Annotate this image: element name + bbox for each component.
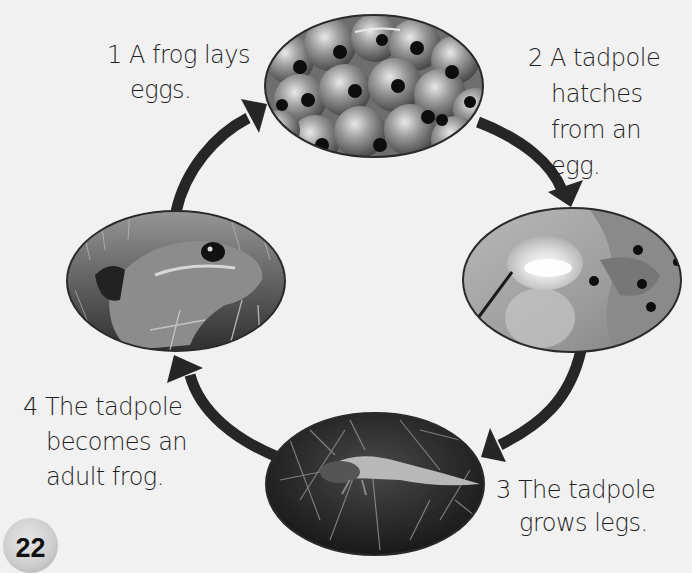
stage-2-line-4: egg.	[528, 148, 660, 184]
arrow-3-to-4	[190, 375, 280, 458]
page-number: 22	[15, 533, 45, 564]
stage-1-line-2: eggs.	[107, 73, 250, 108]
stage-4-line-3: adult frog.	[23, 460, 187, 495]
photo-tadpole-hatching	[460, 205, 690, 360]
stage-3-line-2: grows legs.	[496, 507, 655, 540]
page-number-badge: 22	[3, 518, 58, 573]
photo-adult-frog	[60, 205, 295, 355]
stage-1-label: 1 A frog lays eggs.	[107, 38, 250, 108]
stage-3-line-1: 3 The tadpole	[496, 474, 655, 507]
arrowhead-3-to-4	[167, 355, 203, 383]
photo-tadpole-with-legs	[260, 410, 490, 560]
photo-frog-eggs	[260, 10, 497, 165]
stage-2-line-3: from an	[528, 112, 660, 148]
stage-2-line-1: 2 A tadpole	[528, 40, 660, 76]
arrow-2-to-3	[500, 350, 581, 445]
stage-4-label: 4 The tadpole becomes an adult frog.	[23, 390, 187, 495]
stage-1-line-1: 1 A frog lays	[107, 38, 250, 73]
stage-4-line-2: becomes an	[23, 425, 187, 460]
stage-4-line-1: 4 The tadpole	[23, 390, 187, 425]
stage-3-label: 3 The tadpole grows legs.	[496, 474, 655, 540]
stage-2-line-2: hatches	[528, 76, 660, 112]
arrow-4-to-1	[176, 118, 248, 212]
stage-2-label: 2 A tadpole hatches from an egg.	[528, 40, 660, 184]
frog-life-cycle-diagram: 1 A frog lays eggs. 2 A tadpole hatches …	[0, 0, 692, 573]
